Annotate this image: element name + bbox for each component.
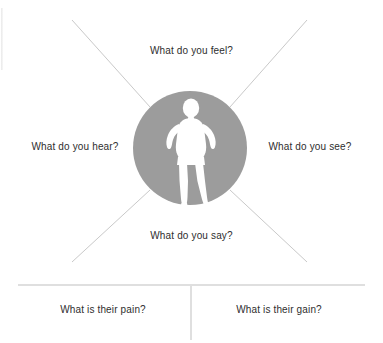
divider-line-bottom-right xyxy=(230,190,307,262)
footer-label-pain: What is their pain? xyxy=(18,303,188,316)
footer-label-gain: What is their gain? xyxy=(194,303,364,316)
quadrant-label-feel: What do you feel? xyxy=(0,44,383,57)
divider-line-bottom-left xyxy=(72,190,150,262)
empathy-map-diagram: What do you feel? What do you hear? What… xyxy=(0,0,383,343)
divider-line-top-right xyxy=(230,20,307,107)
quadrant-label-see: What do you see? xyxy=(251,140,369,153)
quadrant-label-say: What do you say? xyxy=(0,229,383,242)
divider-line-top-left xyxy=(72,20,150,107)
quadrant-label-hear: What do you hear? xyxy=(14,140,136,153)
